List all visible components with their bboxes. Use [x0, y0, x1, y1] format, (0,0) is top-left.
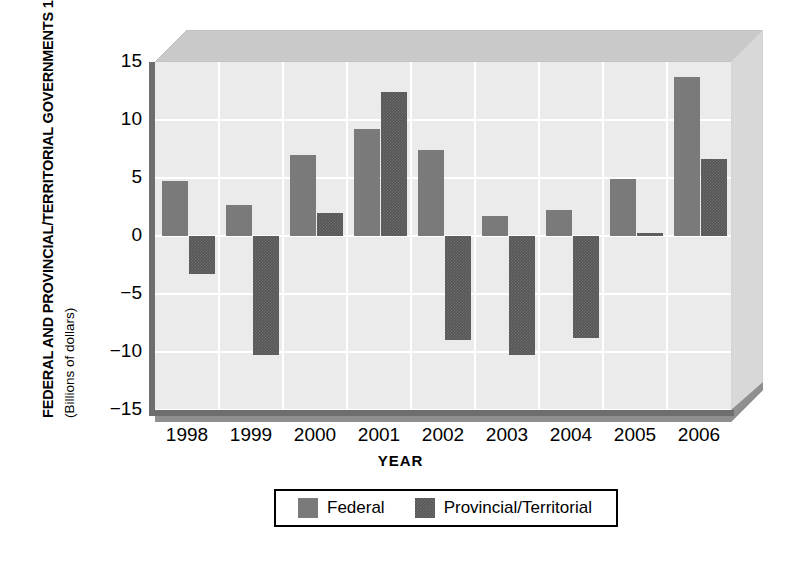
y-tick-label: 0 — [96, 224, 142, 246]
bar-provincial-territorial-2005 — [637, 233, 663, 236]
bar-federal-2006 — [674, 77, 700, 236]
chart-root: FEDERAL AND PROVINCIAL/TERRITORIAL GOVER… — [0, 0, 801, 572]
bar-federal-2003 — [482, 216, 508, 236]
bar-provincial-territorial-1999 — [253, 236, 279, 355]
bar-federal-2002 — [418, 150, 444, 236]
bar-provincial-territorial-1998 — [189, 236, 215, 274]
bar-federal-1998 — [162, 181, 188, 236]
legend-item-federal[interactable]: Federal — [298, 491, 385, 525]
gridline-x — [282, 62, 284, 410]
provincial-swatch — [415, 498, 435, 518]
y-tick-label: −10 — [96, 340, 142, 362]
y-tick-label: 10 — [96, 108, 142, 130]
y-tick-label: 15 — [96, 50, 142, 72]
gridline-x — [218, 62, 220, 410]
legend-label-provincial: Provincial/Territorial — [444, 498, 592, 518]
y-axis-subtitle: (Billions of dollars) — [62, 308, 77, 418]
x-tick-label: 2000 — [280, 424, 350, 446]
x-tick-label: 1999 — [216, 424, 286, 446]
gridline-x — [602, 62, 604, 410]
y-tick-label: −5 — [96, 282, 142, 304]
federal-swatch — [298, 498, 318, 518]
bar-federal-2001 — [354, 129, 380, 236]
bar-federal-1999 — [226, 205, 252, 236]
gridline-y — [155, 293, 731, 295]
x-axis-line — [149, 410, 734, 416]
x-axis-title: YEAR — [0, 452, 801, 469]
bar-provincial-territorial-2000 — [317, 213, 343, 236]
gridline-y — [155, 351, 731, 353]
gridline-x — [666, 62, 668, 410]
x-tick-label: 2004 — [536, 424, 606, 446]
bar-provincial-territorial-2001 — [381, 92, 407, 236]
bar-federal-2005 — [610, 179, 636, 236]
x-tick-label: 2001 — [344, 424, 414, 446]
bar-federal-2004 — [546, 210, 572, 236]
bar-provincial-territorial-2003 — [509, 236, 535, 355]
x-tick-label: 1998 — [152, 424, 222, 446]
x-tick-label: 2002 — [408, 424, 478, 446]
gridline-x — [346, 62, 348, 410]
gridline-x — [474, 62, 476, 410]
gridline-x — [538, 62, 540, 410]
bar-federal-2000 — [290, 155, 316, 236]
y-axis-title: FEDERAL AND PROVINCIAL/TERRITORIAL GOVER… — [40, 0, 56, 418]
x-tick-label: 2006 — [664, 424, 734, 446]
bar-provincial-territorial-2006 — [701, 159, 727, 236]
gridline-y — [155, 119, 731, 121]
y-axis-line — [149, 62, 155, 410]
y-tick-label: 5 — [96, 166, 142, 188]
plot-area — [155, 62, 731, 410]
x-tick-label: 2005 — [600, 424, 670, 446]
gridline-x — [410, 62, 412, 410]
y-tick-label: −15 — [96, 398, 142, 420]
bar-provincial-territorial-2004 — [573, 236, 599, 338]
legend-label-federal: Federal — [327, 498, 385, 518]
bar-provincial-territorial-2002 — [445, 236, 471, 340]
chart-legend: Federal Provincial/Territorial — [274, 489, 618, 527]
legend-item-provincial[interactable]: Provincial/Territorial — [415, 491, 592, 525]
x-tick-label: 2003 — [472, 424, 542, 446]
